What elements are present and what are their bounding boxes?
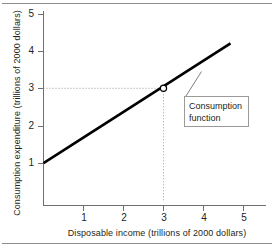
y-tick-marks xyxy=(38,15,43,164)
callout-line-1: Consumption xyxy=(189,101,242,111)
x-tick-marks xyxy=(84,206,244,211)
reference-point-marker xyxy=(160,85,166,91)
y-tick-label-4: 4 xyxy=(20,45,34,56)
y-tick-label-1: 1 xyxy=(20,157,34,168)
consumption-function-callout-text: Consumptionfunction xyxy=(189,100,249,124)
callout-leader-line xyxy=(186,72,202,97)
callout-line-2: function xyxy=(189,113,221,123)
x-axis-label: Disposable income (trillions of 2000 dol… xyxy=(43,228,271,238)
consumption-function-figure: 5 4 3 2 1 1 2 3 4 5 Consumption expendit… xyxy=(0,0,274,248)
y-tick-label-3: 3 xyxy=(20,82,34,93)
y-axis-label: Consumption expenditure (trillions of 20… xyxy=(12,8,22,218)
x-tick-label-1: 1 xyxy=(76,212,92,223)
consumption-function-callout-box: Consumptionfunction xyxy=(184,96,249,127)
x-tick-label-2: 2 xyxy=(116,212,132,223)
x-tick-label-3: 3 xyxy=(156,212,172,223)
x-tick-label-5: 5 xyxy=(236,212,252,223)
x-tick-label-4: 4 xyxy=(196,212,212,223)
y-tick-label-5: 5 xyxy=(20,8,34,19)
y-tick-label-2: 2 xyxy=(20,120,34,131)
